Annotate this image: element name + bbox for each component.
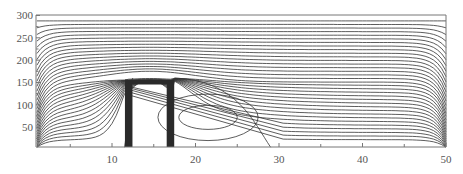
y-tick-label: 100: [17, 99, 34, 111]
y-tick-label: 150: [17, 76, 34, 88]
streamlines: [37, 21, 446, 147]
y-tick-label: 200: [17, 54, 34, 66]
streamline: [37, 31, 446, 41]
y-tick-label: 300: [17, 9, 34, 21]
obstacle-building: [125, 79, 174, 147]
x-tick-label: 40: [357, 153, 369, 165]
streamline: [37, 88, 446, 146]
y-tick-label: 250: [17, 32, 34, 44]
y-tick-label: 50: [22, 121, 34, 133]
streamline: [37, 24, 446, 27]
streamline: [37, 80, 446, 137]
streamline-chart: 1020304050 50100150200250300: [0, 0, 463, 174]
x-tick-label: 50: [441, 153, 453, 165]
x-tick-label: 30: [274, 153, 286, 165]
x-tick-label: 10: [107, 153, 119, 165]
x-tick-label: 20: [190, 153, 202, 165]
